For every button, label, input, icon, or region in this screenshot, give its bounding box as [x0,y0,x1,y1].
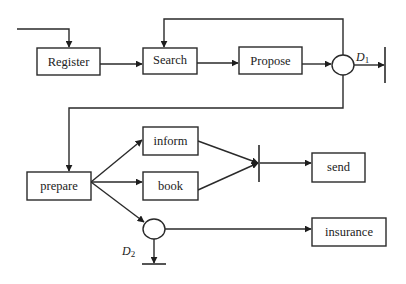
node-label-insurance: insurance [325,225,373,239]
node-label-send: send [327,160,351,174]
decision-label-d2: D2 [121,244,135,259]
node-label-propose: Propose [250,54,291,68]
node-search[interactable]: Search [143,48,197,74]
node-label-book: book [158,179,184,193]
edge-prepare-inform [91,140,142,182]
node-register[interactable]: Register [37,48,100,75]
node-label-prepare: prepare [40,179,78,193]
decision-d2[interactable]: D2 [121,219,165,259]
decision-label-d1: D1 [355,50,369,65]
node-label-register: Register [48,55,90,69]
node-prepare[interactable]: prepare [27,172,91,200]
edge-inform-join [198,141,258,163]
edge-book-join [198,163,258,190]
process-flow-diagram: Register Search Propose prepare inform b… [0,0,406,284]
node-label-inform: inform [153,134,187,148]
edge-start-register [17,29,69,47]
node-inform[interactable]: inform [143,127,198,155]
edge-d1-prepare [69,75,343,171]
node-insurance[interactable]: insurance [312,218,386,246]
node-book[interactable]: book [143,172,198,200]
node-propose[interactable]: Propose [239,47,302,74]
edge-prepare-d2 [91,182,144,222]
node-label-search: Search [153,53,188,67]
node-send[interactable]: send [312,153,365,182]
decision-d1[interactable]: D1 [332,50,369,75]
